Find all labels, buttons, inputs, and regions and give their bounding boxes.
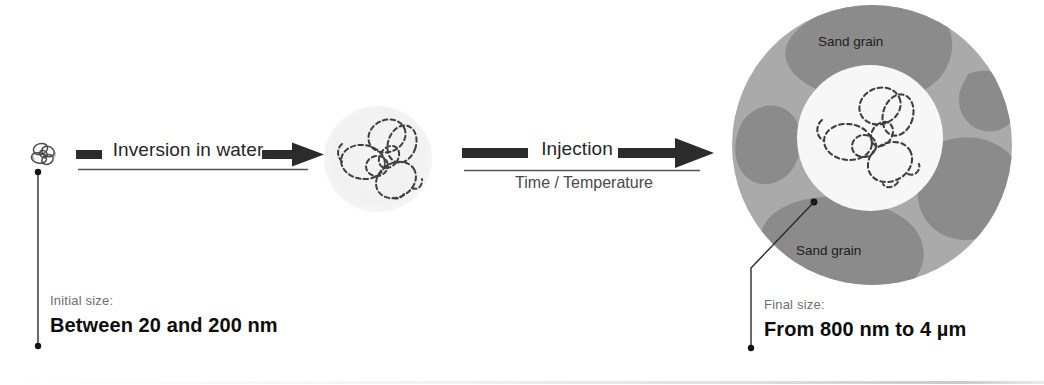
final-size-anchor-dot [811,199,818,206]
swollen-polymer-coil [316,100,444,220]
coil-strands-icon [316,100,444,220]
figure-canvas: Inversion in water Injection [0,0,1044,385]
caption-initial-size: Initial size: Between 20 and 200 nm [50,292,278,337]
caption-final-title: Final size: [764,296,966,313]
caption-final-value: From 800 nm to 4 µm [764,317,966,341]
arrow-injection-sublabel: Time / Temperature [462,173,706,192]
caption-initial-title: Initial size: [50,292,278,309]
sand-grain-label-bottom: Sand grain [796,243,861,259]
arrow-inversion-in-water: Inversion in water [76,140,324,184]
arrow-injection-label: Injection [462,138,692,160]
arrow-inversion-label: Inversion in water [76,139,300,161]
arrow-injection: Injection Time / Temperature [462,132,722,194]
scan-edge-artifact [0,381,1044,384]
sand-grain-label-top: Sand grain [818,34,883,50]
initial-nanoparticle-icon [26,138,62,172]
caption-initial-value: Between 20 and 200 nm [50,313,278,337]
caption-final-size: Final size: From 800 nm to 4 µm [764,296,966,341]
